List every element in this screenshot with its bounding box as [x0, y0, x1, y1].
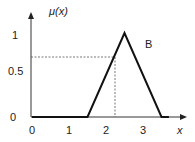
xtick-1: 1: [66, 124, 72, 136]
x-axis-label: x: [177, 124, 183, 136]
chart-plot: [0, 0, 195, 142]
ytick-1: 1: [12, 29, 18, 41]
xtick-0: 0: [29, 124, 35, 136]
series-label-b: B: [145, 38, 152, 50]
xtick-2: 2: [103, 124, 109, 136]
ytick-0: 0: [10, 111, 16, 123]
xtick-3: 3: [140, 124, 146, 136]
membership-chart: μ(x) 1 0.5 0 0 1 2 3 x B: [0, 0, 195, 142]
ytick-0.5: 0.5: [8, 65, 23, 77]
x-axis-arrow-icon: [180, 114, 187, 120]
y-axis-label: μ(x): [49, 5, 68, 17]
y-axis-arrow-icon: [28, 12, 34, 19]
